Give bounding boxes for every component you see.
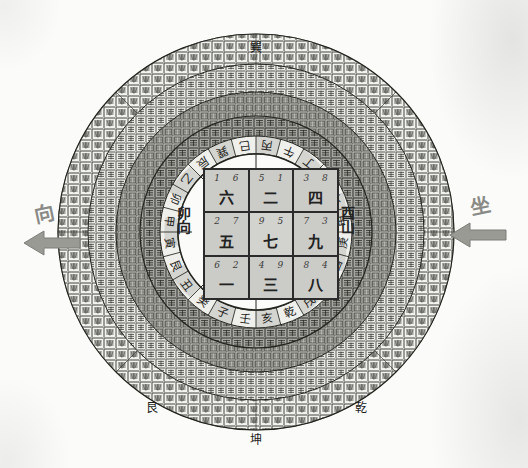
cell-stars: 2 7 <box>205 216 248 226</box>
diagram-canvas: 壬子癸丑艮寅甲卯乙辰巽巳丙午丁未坤申庚酉辛戌乾亥 坤 乾 艮 巽 <box>0 0 528 468</box>
cell-stars: 6 2 <box>205 260 248 270</box>
cell-stars: 5 1 <box>250 173 293 183</box>
flying-star-cell: 5 1 二 <box>249 169 294 212</box>
trigram-kun: 坤 <box>250 432 262 447</box>
cell-period: 八 <box>294 278 337 293</box>
flying-star-cell: 4 9 三 <box>249 256 294 299</box>
flying-star-cell: 1 6 六 <box>204 169 249 212</box>
mountain-glyph: 寅 <box>162 237 177 250</box>
cell-stars: 3 8 <box>294 173 337 183</box>
flying-star-cell: 3 8 四 <box>293 169 338 212</box>
flying-star-cell: 6 2 一 <box>204 256 249 299</box>
cell-stars: 1 6 <box>205 173 248 183</box>
sitting-arrow-label: 坐 <box>467 188 493 221</box>
flying-star-cell: 8 4 八 <box>293 256 338 299</box>
cell-period: 六 <box>205 191 248 206</box>
flying-star-cell: 7 3 九 <box>293 212 338 255</box>
cell-stars: 4 9 <box>250 260 293 270</box>
cell-period: 一 <box>205 278 248 293</box>
mountain-glyph: 巳 <box>238 138 251 153</box>
trigram-xun: 巽 <box>250 41 262 55</box>
cell-period: 三 <box>250 278 293 293</box>
mountain-glyph: 丙 <box>261 138 274 153</box>
trigram-gen: 艮 <box>146 401 158 415</box>
mountain-glyph: 亥 <box>261 311 274 326</box>
trigram-qian: 乾 <box>355 401 367 415</box>
cell-period: 九 <box>294 235 337 250</box>
cell-stars: 8 4 <box>294 260 337 270</box>
sitting-direction-arrow: 坐 <box>448 190 512 260</box>
cell-period: 二 <box>250 191 293 206</box>
cell-period: 七 <box>250 235 293 250</box>
flying-star-grid: 1 6 六 5 1 二 3 8 四 2 7 五 9 5 七 7 3 九 6 2 … <box>203 168 339 300</box>
flying-star-cell-center: 9 5 七 <box>249 212 294 255</box>
facing-direction-arrow: 向 <box>22 198 86 268</box>
facing-arrow-label: 向 <box>31 196 57 229</box>
cell-stars: 7 3 <box>294 216 337 226</box>
flying-star-cell: 2 7 五 <box>204 212 249 255</box>
mountain-glyph: 壬 <box>238 311 251 326</box>
arrow-left-icon <box>448 220 508 250</box>
cell-period: 五 <box>205 235 248 250</box>
cell-period: 四 <box>294 191 337 206</box>
cell-stars: 9 5 <box>250 216 293 226</box>
arrow-left-icon <box>22 228 82 258</box>
mountain-glyph: 甲 <box>162 214 177 227</box>
